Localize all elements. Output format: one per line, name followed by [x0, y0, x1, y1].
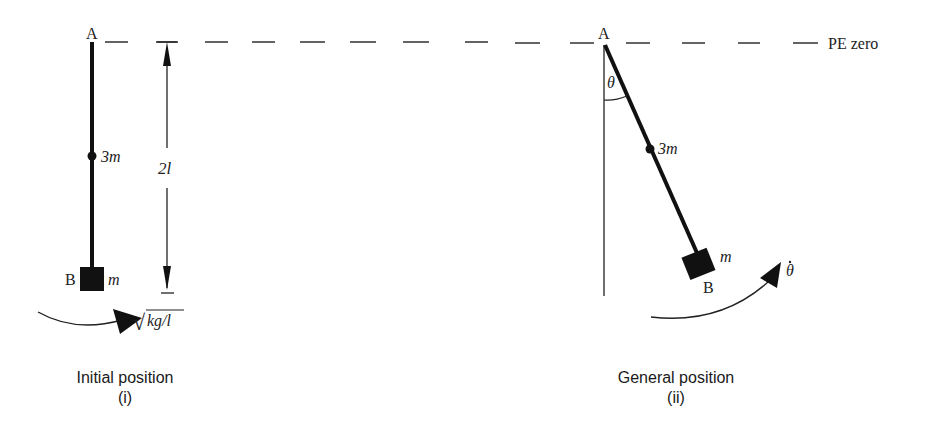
mid-mass-dot	[88, 152, 97, 161]
initial-position-caption: Initial position (i)	[50, 368, 200, 408]
angle-label: θ	[607, 74, 615, 91]
pe-zero-datum-line	[105, 42, 818, 43]
mid-mass-label: 3m	[100, 148, 121, 165]
end-mass-label: m	[720, 248, 732, 265]
end-label-b: B	[703, 279, 714, 296]
caption-title: General position	[596, 368, 756, 388]
angular-velocity-label: θ	[786, 262, 794, 279]
mid-mass-label: 3m	[657, 140, 678, 157]
angular-velocity-arrow	[38, 312, 122, 325]
pe-zero-label: PE zero	[828, 35, 878, 52]
end-label-b: B	[65, 271, 76, 288]
end-mass-block	[80, 267, 104, 291]
mid-mass-dot	[646, 145, 655, 154]
pivot-label-a: A	[598, 25, 610, 42]
general-position-caption: General position (ii)	[596, 368, 756, 408]
caption-sub: (ii)	[596, 388, 756, 408]
sqrt-argument: kg/l	[147, 312, 172, 330]
arrowhead-icon	[760, 262, 781, 288]
initial-position-panel: A 3m B m 2l √ kg/l	[38, 25, 184, 335]
length-label: 2l	[158, 159, 172, 178]
end-mass-label: m	[108, 271, 120, 288]
dot-accent	[789, 261, 791, 263]
general-position-panel: A θ 3m B m θ	[598, 25, 794, 318]
sqrt-symbol: √	[133, 310, 146, 335]
end-mass-block	[681, 248, 715, 280]
caption-title: Initial position	[50, 368, 200, 388]
caption-sub: (i)	[50, 388, 200, 408]
angle-arc	[604, 96, 627, 100]
pivot-label-a: A	[86, 25, 98, 42]
